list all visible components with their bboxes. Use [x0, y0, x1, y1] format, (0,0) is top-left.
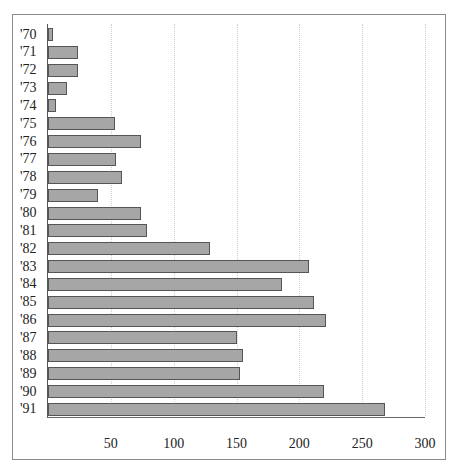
bar: 79	[48, 224, 147, 237]
y-tick-label: '88	[20, 349, 46, 363]
y-tick-label: '70	[20, 28, 46, 42]
bar: 24	[48, 46, 78, 59]
bar: 74	[48, 135, 141, 148]
bar: 24	[48, 64, 78, 77]
bar: 74	[48, 207, 141, 220]
y-axis-line	[47, 24, 48, 418]
y-tick-label: '75	[20, 117, 46, 131]
x-tick-label: 100	[163, 436, 184, 452]
bar: 153	[48, 367, 240, 380]
x-tick-label: 300	[415, 436, 436, 452]
y-tick-label: '74	[20, 99, 46, 113]
y-tick-label: '77	[20, 152, 46, 166]
y-tick-label: '72	[20, 63, 46, 77]
y-tick-label: '82	[20, 242, 46, 256]
x-tick-label: 150	[226, 436, 247, 452]
x-tick-label: 250	[352, 436, 373, 452]
y-tick-label: '81	[20, 224, 46, 238]
bar: 186	[48, 278, 282, 291]
bar: 221	[48, 314, 326, 327]
bar: 59	[48, 171, 122, 184]
bar: 54	[48, 153, 116, 166]
y-tick-label: '86	[20, 313, 46, 327]
bar: 15	[48, 82, 67, 95]
y-tick-label: '78	[20, 170, 46, 184]
bar: 53	[48, 117, 115, 130]
gridline	[299, 24, 300, 416]
y-tick-label: '73	[20, 81, 46, 95]
bar: 268	[48, 403, 385, 416]
gridline	[362, 24, 363, 416]
bar: 150	[48, 331, 237, 344]
bar: 212	[48, 296, 314, 309]
gridline	[425, 24, 426, 416]
bar: 155	[48, 349, 243, 362]
x-tick-label: 50	[104, 436, 118, 452]
bar: 208	[48, 260, 309, 273]
y-tick-label: '83	[20, 260, 46, 274]
bar: 4	[48, 28, 53, 41]
y-tick-label: '76	[20, 135, 46, 149]
y-tick-label: '87	[20, 331, 46, 345]
y-tick-label: '90	[20, 385, 46, 399]
bar: 220	[48, 385, 324, 398]
y-tick-label: '79	[20, 188, 46, 202]
y-tick-label: '80	[20, 206, 46, 220]
y-tick-label: '85	[20, 295, 46, 309]
y-tick-label: '89	[20, 367, 46, 381]
y-tick-label: '84	[20, 277, 46, 291]
x-tick-label: 200	[289, 436, 310, 452]
x-axis-line	[47, 417, 425, 418]
bar: 6	[48, 99, 56, 112]
y-tick-label: '91	[20, 402, 46, 416]
y-tick-label: '71	[20, 45, 46, 59]
bar: 40	[48, 189, 98, 202]
bar: 129	[48, 242, 210, 255]
